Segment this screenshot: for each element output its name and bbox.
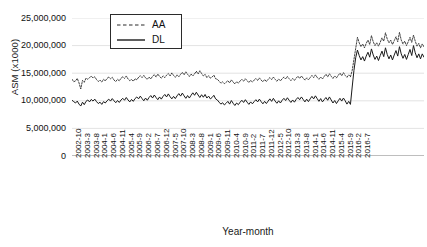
y-axis-tick-label: 15,000,000 [21, 69, 66, 78]
y-axis-tick-label: 5,000,000 [26, 124, 66, 133]
series-line-dl [72, 46, 424, 106]
y-axis-tick-labels: 05,000,00010,000,00015,000,00020,000,000… [0, 0, 70, 247]
legend-entry-aa: AA [111, 17, 181, 32]
x-axis-title: Year-month [72, 226, 424, 237]
legend-entry-dl: DL [111, 32, 181, 47]
x-axis-tick-label: 2009-11 [224, 129, 232, 158]
y-axis-tick-label: 20,000,000 [21, 41, 66, 50]
x-axis-tick-label: 2006-12 [163, 129, 171, 158]
legend-swatch-solid-icon [116, 36, 146, 44]
chart-figure: ASM (x1000) 05,000,00010,000,00015,000,0… [0, 0, 427, 247]
legend-label-aa: AA [152, 20, 165, 30]
x-axis-tick-label: 2011-7 [259, 134, 267, 158]
x-axis-tick-labels: 2002-102003-32003-82004-12004-62004-1120… [72, 158, 424, 220]
x-axis-tick-label: 2015-4 [338, 133, 346, 158]
x-axis-tick-label: 2006-7 [154, 133, 162, 158]
x-axis-tick-label: 2013-8 [303, 133, 311, 158]
legend-label-dl: DL [152, 35, 165, 45]
x-axis-tick-label: 2008-3 [189, 133, 197, 158]
x-axis-tick-label: 2008-8 [198, 133, 206, 158]
x-axis-tick-label: 2014-11 [329, 129, 337, 158]
x-axis-tick-label: 2004-11 [119, 129, 127, 158]
x-axis-tick-label: 2003-3 [84, 133, 92, 158]
legend-swatch-dashed-icon [116, 21, 146, 29]
x-axis-tick-label: 2013-3 [294, 133, 302, 158]
x-axis-tick-label: 2010-4 [233, 133, 241, 158]
x-axis-tick-label: 2011-12 [268, 129, 276, 158]
y-axis-tick-label: 10,000,000 [21, 96, 66, 105]
x-axis-tick-label: 2016-7 [364, 133, 372, 158]
y-axis-tick-label: 0 [61, 152, 66, 161]
y-axis-tick-label: 25,000,000 [21, 14, 66, 23]
x-axis-tick-label: 2002-10 [75, 129, 83, 158]
chart-legend: AA DL [110, 14, 182, 49]
